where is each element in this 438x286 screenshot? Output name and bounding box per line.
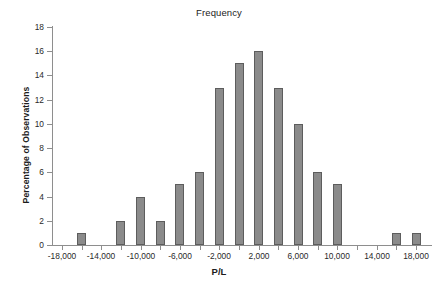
x-axis-minor-tick	[160, 246, 161, 250]
histogram-bar	[333, 184, 342, 245]
histogram-bar	[175, 184, 184, 245]
histogram-bar	[136, 197, 145, 245]
x-axis-tick-label: 18,000	[388, 252, 438, 260]
y-axis-tick-label: 4	[20, 193, 44, 201]
y-axis-tick	[47, 245, 52, 246]
x-axis-minor-tick	[396, 246, 397, 250]
y-axis-tick-label: 16	[20, 47, 44, 55]
histogram-bar	[392, 233, 401, 245]
x-axis-tick	[219, 246, 220, 250]
x-axis-minor-tick	[318, 246, 319, 250]
x-axis-tick	[141, 246, 142, 250]
x-axis-minor-tick	[239, 246, 240, 250]
y-axis-tick-label: 8	[20, 144, 44, 152]
x-axis-tick	[259, 246, 260, 250]
x-axis-line	[52, 245, 432, 246]
x-axis-minor-tick	[357, 246, 358, 250]
y-axis-tick-label: 10	[20, 120, 44, 128]
histogram-bar	[77, 233, 86, 245]
histogram-bar	[294, 124, 303, 245]
y-axis-tick-label: 18	[20, 23, 44, 31]
x-axis-tick	[101, 246, 102, 250]
y-axis-tick-label: 0	[20, 241, 44, 249]
x-axis-tick	[298, 246, 299, 250]
histogram-bar	[235, 63, 244, 245]
chart-title: Frequency	[0, 7, 438, 18]
x-axis-tick	[416, 246, 417, 250]
histogram-bar	[195, 172, 204, 245]
histogram-bar	[313, 172, 322, 245]
x-axis-tick	[377, 246, 378, 250]
y-axis-tick-label: 14	[20, 71, 44, 79]
histogram-bar	[274, 88, 283, 245]
x-axis-tick	[62, 246, 63, 250]
histogram-bar	[254, 51, 263, 245]
x-axis-title: P/L	[0, 266, 438, 277]
x-axis-tick	[180, 246, 181, 250]
x-axis-minor-tick	[82, 246, 83, 250]
histogram-bar	[156, 221, 165, 245]
y-axis-tick-label: 12	[20, 96, 44, 104]
x-axis-minor-tick	[121, 246, 122, 250]
histogram-bar	[215, 88, 224, 245]
x-axis-tick	[337, 246, 338, 250]
y-axis-tick-label: 2	[20, 217, 44, 225]
plot-area	[52, 27, 426, 245]
histogram-bar	[412, 233, 421, 245]
y-axis-tick-label: 6	[20, 168, 44, 176]
x-axis-minor-tick	[278, 246, 279, 250]
frequency-histogram-chart: Frequency Percentage of Observations 024…	[0, 0, 438, 286]
histogram-bar	[116, 221, 125, 245]
x-axis-minor-tick	[200, 246, 201, 250]
